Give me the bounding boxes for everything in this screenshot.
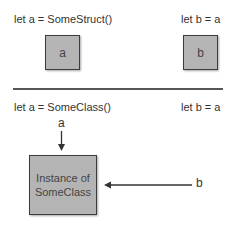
instance-label-line1: Instance of	[35, 171, 91, 185]
arrow-b-icon	[104, 182, 192, 189]
instance-box: Instance of SomeClass	[29, 155, 97, 215]
instance-label-line2: SomeClass	[35, 185, 91, 199]
arrow-a-icon	[58, 131, 65, 151]
